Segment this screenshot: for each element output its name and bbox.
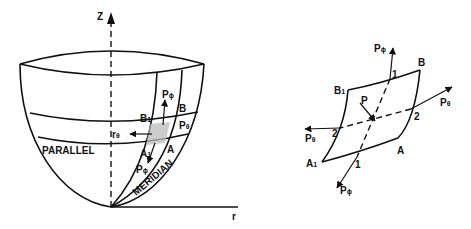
p-phi-top-label: Pϕ xyxy=(162,89,174,100)
p-phi-top-arrow xyxy=(163,100,165,125)
p-phi-bottom-label: Pϕ xyxy=(340,185,352,196)
edge-a1-b1 xyxy=(322,90,348,162)
a-label: A xyxy=(397,145,404,156)
z-axis-arrow-icon xyxy=(107,12,115,24)
b-label: B xyxy=(418,57,425,68)
edge-b1-b xyxy=(348,70,420,90)
p-phi-bottom-arrow xyxy=(337,157,357,188)
rim-back xyxy=(20,51,204,64)
p-theta-label: Pθ xyxy=(179,120,190,131)
meridian-dashed-line xyxy=(357,79,390,157)
p-phi-top-label: Pϕ xyxy=(374,43,386,54)
b1-label: B1 xyxy=(140,113,151,124)
b1-label: B1 xyxy=(334,85,345,96)
shell-diagram: Z r Pϕ B1 B Pθ rθ PARALLEL A1 A Pϕ MERID… xyxy=(0,0,471,229)
mark-2-left: 2 xyxy=(332,128,338,139)
parallel-upper xyxy=(30,112,198,121)
r-axis-label: r xyxy=(232,211,236,222)
a-label: A xyxy=(167,144,174,155)
mark-1-top: 1 xyxy=(392,69,398,80)
shell-of-revolution: Z r Pϕ B1 B Pθ rθ PARALLEL A1 A Pϕ MERID… xyxy=(20,11,238,222)
p-label: P xyxy=(361,95,368,106)
p-phi-bottom-label: Pϕ xyxy=(136,164,148,175)
z-axis-label: Z xyxy=(97,11,103,22)
mark-1-bottom: 1 xyxy=(355,159,361,170)
a1-label: A1 xyxy=(306,158,317,169)
p-theta-left-label: Pθ xyxy=(305,133,316,144)
p-theta-right-label: Pθ xyxy=(440,97,451,108)
shell-element-detail: Pϕ B B1 1 P Pθ 2 2 Pθ A A1 1 Pϕ xyxy=(305,43,452,196)
parallel-label: PARALLEL xyxy=(42,145,95,156)
rim-front xyxy=(20,64,204,75)
a1-label: A1 xyxy=(140,148,151,159)
edge-b-a xyxy=(398,70,420,138)
r-theta-label: rθ xyxy=(112,129,120,140)
b-label: B xyxy=(179,103,186,114)
mark-2-right: 2 xyxy=(414,111,420,122)
